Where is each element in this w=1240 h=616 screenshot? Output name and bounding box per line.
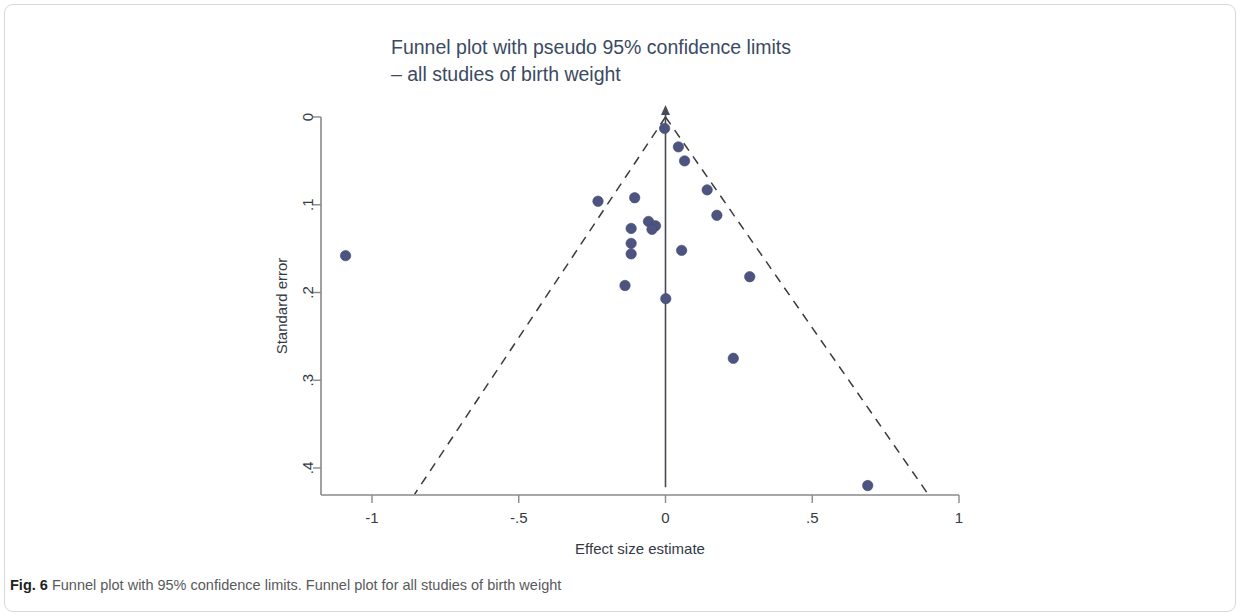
data-point xyxy=(673,142,683,152)
y-tick-label: .2 xyxy=(299,286,316,299)
pooled-effect-arrowhead xyxy=(661,105,670,115)
y-tick-label: 0 xyxy=(299,113,316,121)
data-point xyxy=(661,293,671,303)
data-point xyxy=(647,224,657,234)
x-tick-label: .5 xyxy=(806,509,819,526)
chart-title: Funnel plot with pseudo 95% confidence l… xyxy=(391,36,791,58)
x-tick-label: -1 xyxy=(365,509,378,526)
y-axis-title: Standard error xyxy=(273,258,290,355)
data-point xyxy=(626,238,636,248)
data-point xyxy=(629,193,639,203)
x-axis-ticks: -1-.50.51 xyxy=(365,495,963,526)
figure-number: Fig. 6 xyxy=(10,577,48,593)
ci-limit-right xyxy=(666,117,929,494)
data-point xyxy=(340,250,350,260)
data-point xyxy=(626,223,636,233)
figure-caption-text: Funnel plot with 95% confidence limits. … xyxy=(52,577,561,593)
data-point xyxy=(728,353,738,363)
data-point xyxy=(679,156,689,166)
funnel-plot: Funnel plot with pseudo 95% confidence l… xyxy=(0,0,1240,570)
ci-limit-left xyxy=(415,117,666,494)
data-point xyxy=(712,210,722,220)
data-point xyxy=(702,185,712,195)
data-points xyxy=(340,123,873,491)
x-tick-label: -.5 xyxy=(510,509,528,526)
data-point xyxy=(745,272,755,282)
data-point xyxy=(863,480,873,490)
x-tick-label: 0 xyxy=(661,509,669,526)
data-point xyxy=(676,245,686,255)
data-point xyxy=(593,196,603,206)
data-point xyxy=(659,123,669,133)
y-tick-label: .3 xyxy=(299,374,316,387)
x-tick-label: 1 xyxy=(955,509,963,526)
figure-caption: Fig. 6 Funnel plot with 95% confidence l… xyxy=(10,576,1220,596)
data-point xyxy=(620,280,630,290)
funnel-plot-svg: Funnel plot with pseudo 95% confidence l… xyxy=(0,0,1240,570)
data-point xyxy=(626,249,636,259)
figure-card: Funnel plot with pseudo 95% confidence l… xyxy=(0,0,1240,616)
y-tick-label: .1 xyxy=(299,198,316,211)
y-axis-ticks: 0.1.2.3.4 xyxy=(299,113,322,474)
confidence-limit-lines xyxy=(415,117,929,494)
y-tick-label: .4 xyxy=(299,462,316,475)
x-axis-title: Effect size estimate xyxy=(575,540,705,557)
chart-subtitle: – all studies of birth weight xyxy=(391,63,621,85)
